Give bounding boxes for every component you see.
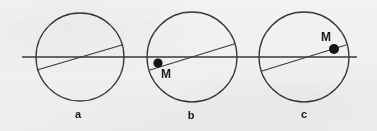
panel-caption-c: c	[301, 108, 307, 120]
panel-caption-a: a	[75, 108, 82, 120]
mass-point-marker-c	[329, 44, 339, 54]
panel-caption-b: b	[188, 109, 195, 121]
mass-point-label-c: M	[321, 30, 331, 44]
diagram-canvas: M M a b c	[0, 0, 377, 131]
mass-point-label-b: M	[161, 67, 171, 81]
figure-root: M M a b c	[0, 0, 377, 131]
